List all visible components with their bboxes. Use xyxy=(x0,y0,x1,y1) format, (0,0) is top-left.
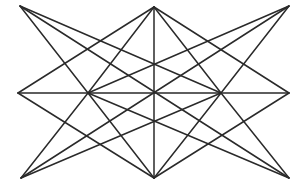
edge-tr-l xyxy=(88,6,289,93)
edge-tr-r xyxy=(221,6,289,93)
diagram-edges xyxy=(18,6,289,178)
line-figure-diagram xyxy=(0,0,304,191)
edge-br-l xyxy=(88,93,289,178)
edge-tl-r xyxy=(20,6,221,93)
edge-br-r xyxy=(221,93,289,178)
edge-bl-l xyxy=(21,93,88,178)
edge-t-ml xyxy=(18,7,154,93)
edge-bl-r xyxy=(21,93,221,178)
edge-tl-l xyxy=(20,6,88,93)
